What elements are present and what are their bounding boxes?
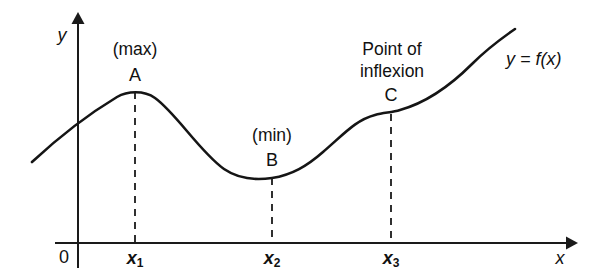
y-axis-label: y	[56, 25, 68, 45]
annotation-min: (min)	[252, 125, 292, 145]
annotation-max: (max)	[113, 39, 158, 59]
annotation-inflexion-line1: Point of	[362, 39, 421, 59]
tick-label-x1-subscript: 1	[137, 256, 144, 270]
tick-label-x3-subscript: 3	[393, 256, 400, 270]
x-axis-arrow-icon	[566, 237, 578, 250]
annotation-inflexion-line2: inflexion	[360, 61, 424, 81]
x-axis-label: x	[555, 248, 566, 268]
point-label-a: A	[129, 65, 141, 85]
point-label-b: B	[266, 150, 278, 170]
function-graph-figure: y x 0 x1 x2 x3 (max) A (min) B Point of …	[0, 0, 596, 278]
y-axis-arrow-icon	[72, 12, 85, 24]
tick-label-x2: x2	[263, 248, 281, 270]
tick-label-x1: x1	[126, 248, 144, 270]
graph-canvas: y x 0 x1 x2 x3 (max) A (min) B Point of …	[0, 0, 596, 278]
curve-equation-label: y = f(x)	[504, 49, 562, 69]
tick-label-x2-subscript: 2	[274, 256, 281, 270]
point-label-c: C	[385, 85, 398, 105]
origin-label: 0	[59, 247, 69, 267]
tick-label-x3: x3	[382, 248, 400, 270]
